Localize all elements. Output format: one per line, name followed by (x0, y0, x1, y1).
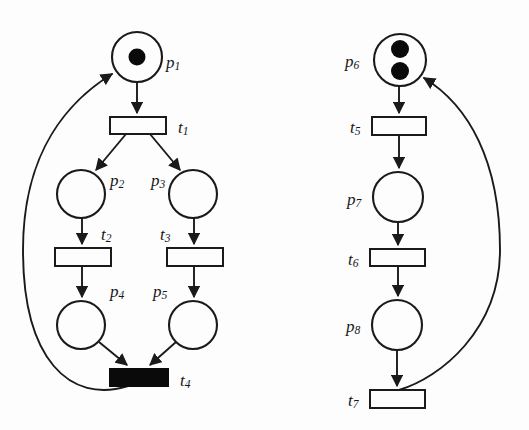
transition-label-t3: t3 (160, 225, 171, 244)
token-dot (391, 40, 409, 58)
token-dot (129, 49, 146, 66)
transition-label-t5: t5 (350, 118, 361, 137)
place-p8[interactable] (372, 300, 422, 350)
petri-net-canvas: t1t2t3t4t5t6t7p1p2p3p4p5p6p7p8 (0, 0, 529, 430)
place-label-p8: p8 (345, 317, 361, 336)
transition-label-t6: t6 (348, 250, 359, 269)
place-label-p5: p5 (152, 282, 168, 301)
transition-label-t1: t1 (178, 118, 188, 137)
transitions-layer (55, 117, 426, 408)
transition-t7[interactable] (370, 390, 425, 408)
place-label-p6: p6 (344, 52, 360, 71)
transition-t4[interactable] (110, 369, 168, 386)
transition-t5[interactable] (372, 117, 426, 135)
place-label-p4: p4 (109, 282, 125, 301)
place-label-p3: p3 (150, 171, 166, 190)
arc-p5-to-t4 (150, 342, 176, 365)
transition-label-t2: t2 (101, 225, 112, 244)
arc-p4-to-t4 (99, 342, 127, 365)
transition-t6[interactable] (370, 249, 425, 266)
transition-t1[interactable] (110, 117, 166, 134)
transition-t2[interactable] (55, 248, 111, 266)
arc-t1-to-p3 (150, 134, 180, 170)
transition-label-t4: t4 (180, 371, 191, 390)
arc-t1-to-p2 (96, 134, 126, 170)
place-p4[interactable] (57, 301, 105, 349)
transition-t3[interactable] (167, 248, 223, 266)
places-layer (57, 32, 426, 350)
labels-layer: t1t2t3t4t5t6t7p1p2p3p4p5p6p7p8 (101, 52, 363, 410)
transition-label-t7: t7 (348, 391, 360, 410)
place-p7[interactable] (373, 172, 423, 222)
place-label-p1: p1 (165, 53, 180, 72)
token-dot (391, 62, 409, 80)
place-p3[interactable] (169, 170, 217, 218)
place-p5[interactable] (169, 301, 217, 349)
place-label-p7: p7 (346, 190, 363, 209)
petri-net-diagram: t1t2t3t4t5t6t7p1p2p3p4p5p6p7p8 (0, 0, 529, 430)
place-p2[interactable] (57, 170, 105, 218)
place-label-p2: p2 (109, 171, 125, 190)
